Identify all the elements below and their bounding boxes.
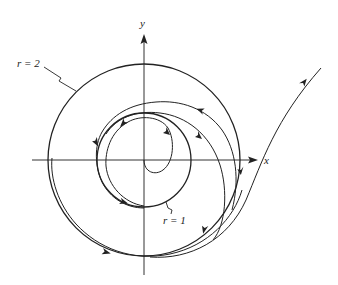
r2-label: r = 2: [17, 58, 40, 69]
r1-leader-line: [166, 202, 172, 214]
escaping-trajectory: [150, 68, 321, 257]
r1-label: r = 1: [163, 215, 186, 226]
arrow-icon: [163, 127, 170, 135]
arrow-icon: [195, 131, 202, 139]
r2-leader-line: [44, 67, 76, 91]
axes: [32, 34, 258, 275]
inner-spiral-trajectory: [106, 118, 173, 206]
y-axis-label: y: [140, 18, 145, 29]
x-axis-label: x: [264, 155, 269, 166]
arrow-icon: [237, 167, 245, 176]
phase-portrait-diagram: [0, 0, 338, 285]
arrow-icon: [201, 224, 210, 234]
